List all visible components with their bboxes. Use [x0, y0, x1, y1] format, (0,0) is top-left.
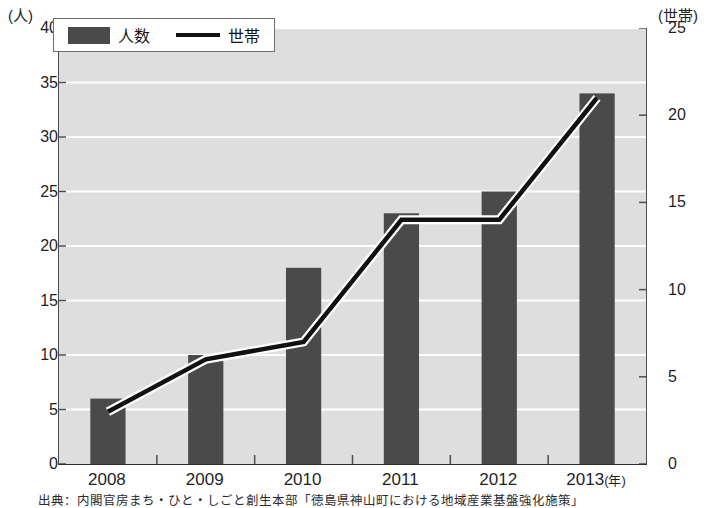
right-tick-label: 20 — [668, 107, 686, 123]
left-tick-label: 25 — [40, 184, 58, 200]
source-note: 出典：内閣官房まち・ひと・しごと創生本部「徳島県神山町における地域産業基盤強化施… — [38, 494, 708, 508]
chart-figure: (人) (世帯) 4035302520151050 2520151050 人数 … — [0, 0, 715, 508]
legend-item-bars: 人数 — [68, 23, 150, 47]
right-tick-label: 10 — [668, 282, 686, 298]
right-tick-label: 25 — [668, 20, 686, 36]
legend-label-line: 世帯 — [228, 23, 260, 47]
line-series-世帯 — [108, 98, 597, 412]
left-tick-label: 10 — [40, 347, 58, 363]
left-axis-ticks: 4035302520151050 — [18, 0, 58, 508]
left-tick-label: 20 — [40, 238, 58, 254]
x-axis-label: 2008 — [58, 466, 156, 496]
right-axis-ticks: 2520151050 — [668, 0, 708, 508]
left-tick-label: 5 — [49, 402, 58, 418]
plot-area — [58, 28, 647, 465]
chart-canvas — [59, 28, 646, 464]
left-tick-label: 35 — [40, 75, 58, 91]
right-tick-label: 0 — [668, 456, 677, 472]
right-tick-label: 15 — [668, 194, 686, 210]
x-axis-labels: 200820092010201120122013(年) — [58, 466, 645, 496]
legend-bar-swatch-icon — [68, 27, 110, 44]
x-axis-label: 2011 — [351, 466, 449, 496]
gridlines — [59, 28, 646, 464]
chart-legend: 人数 世帯 — [53, 18, 275, 52]
x-axis-label: 2010 — [254, 466, 352, 496]
left-tick-label: 30 — [40, 129, 58, 145]
x-axis-unit-label: (年) — [604, 473, 626, 488]
legend-label-bars: 人数 — [118, 23, 150, 47]
legend-item-line: 世帯 — [176, 23, 260, 47]
legend-line-swatch-icon — [176, 33, 220, 37]
left-tick-label: 0 — [49, 456, 58, 472]
x-axis-label: 2009 — [156, 466, 254, 496]
x-axis-label: 2013(年) — [547, 466, 645, 496]
left-tick-label: 15 — [40, 293, 58, 309]
right-tick-label: 5 — [668, 369, 677, 385]
x-axis-label: 2012 — [449, 466, 547, 496]
